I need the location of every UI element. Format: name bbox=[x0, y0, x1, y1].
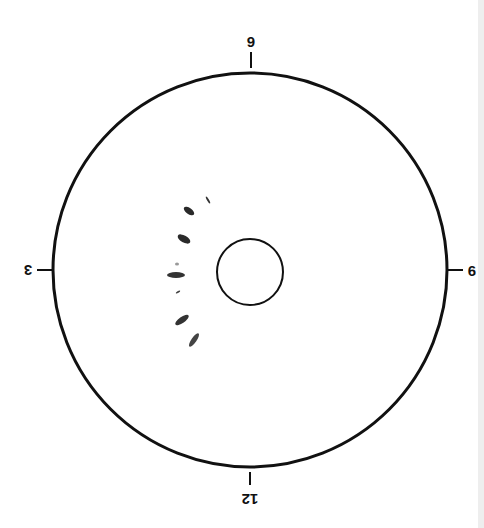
impact-mark bbox=[187, 332, 200, 348]
impact-mark bbox=[175, 290, 180, 294]
impact-mark bbox=[167, 272, 185, 278]
impact-mark bbox=[205, 196, 211, 204]
inner-circle bbox=[217, 239, 283, 305]
label-right: 6 bbox=[468, 262, 476, 279]
impact-mark bbox=[174, 313, 191, 327]
impact-mark bbox=[176, 232, 192, 245]
label-left: 3 bbox=[24, 262, 32, 279]
impact-marks bbox=[167, 196, 211, 348]
outer-circle bbox=[53, 73, 447, 467]
impact-mark bbox=[182, 205, 195, 217]
impact-mark bbox=[175, 263, 179, 266]
clock-diagram: 9 3 6 12 bbox=[0, 0, 484, 528]
label-top: 9 bbox=[247, 33, 255, 50]
label-bottom: 12 bbox=[242, 491, 259, 508]
edge-strip bbox=[478, 0, 484, 528]
